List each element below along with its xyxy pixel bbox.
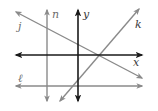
line-l-label: ℓ: [18, 72, 23, 85]
coordinate-plane-diagram: n ℓ j k x y: [0, 0, 158, 111]
x-axis-label: x: [133, 56, 140, 69]
line-j-label: j: [15, 20, 22, 33]
line-j: [16, 12, 142, 78]
line-n-label: n: [52, 8, 59, 21]
line-k-label: k: [135, 18, 142, 31]
y-axis-label: y: [82, 8, 90, 21]
